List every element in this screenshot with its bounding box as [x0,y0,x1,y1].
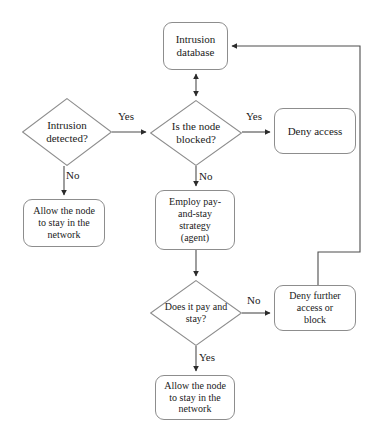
node-intrusion-database: Intrusion database [163,22,228,70]
edge-label-yes-detected-blocked: Yes [118,111,134,122]
edge-label-yes-blocked-deny: Yes [246,111,262,122]
node-deny-further-access: Deny further access or block [274,285,356,331]
edge-label-no-blocked-employ: No [199,171,212,182]
node-allow-node-bottom: Allow the node to stay in the network [155,375,235,420]
node-does-it-pay-and-stay: Does it pay and stay? [150,280,242,346]
node-deny-further-access-label: Deny further access or block [286,290,343,325]
node-allow-node-top-label: Allow the node to stay in the network [30,205,98,240]
node-intrusion-detected: Intrusion detected? [22,98,112,166]
node-employ-pay-and-stay: Employ pay- and-stay strategy (agent) [155,190,235,250]
edge-label-no-pay-deny: No [247,295,260,306]
node-allow-node-top: Allow the node to stay in the network [23,199,105,247]
node-intrusion-database-label: Intrusion database [173,33,219,59]
node-is-node-blocked: Is the node blocked? [150,100,242,166]
node-deny-access: Deny access [274,108,356,154]
flowchart-diagram: Is the node blocked? --> Allow the node … [0,0,382,438]
node-intrusion-detected-label: Intrusion detected? [43,119,91,145]
node-employ-pay-and-stay-label: Employ pay- and-stay strategy (agent) [166,196,224,243]
edge-label-no-detected-allow: No [66,170,79,181]
node-deny-access-label: Deny access [285,125,346,138]
node-does-it-pay-and-stay-label: Does it pay and stay? [162,301,231,325]
edge-deny-further-to-database [232,46,360,285]
node-is-node-blocked-label: Is the node blocked? [169,120,223,146]
edge-label-yes-pay-allow: Yes [199,352,215,363]
node-allow-node-bottom-label: Allow the node to stay in the network [161,380,229,415]
